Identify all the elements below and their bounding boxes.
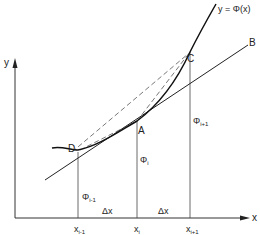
x-ip1-label: xi+1: [186, 224, 199, 235]
x-i-label: xi: [134, 224, 140, 235]
x-axis-label: x: [252, 212, 257, 223]
point-B-label: B: [249, 37, 256, 48]
phi-im1-label: Φi-1: [82, 192, 97, 203]
y-axis-label: y: [4, 57, 9, 68]
curve-label: y = Φ(x): [218, 4, 250, 14]
curve-phi: [52, 4, 216, 150]
point-D-label: D: [68, 143, 75, 154]
x-axis-arrow-icon: [240, 216, 250, 221]
phi-ip1-label: Φi+1: [193, 116, 209, 127]
point-C-label: C: [187, 53, 194, 64]
point-A-label: A: [138, 125, 145, 136]
x-im1-label: xi-1: [74, 224, 86, 235]
delta-x-label-1: Δx: [102, 206, 113, 216]
y-axis-arrow-icon: [13, 58, 18, 68]
phi-i-label: Φi: [140, 155, 149, 166]
secant-DC-dashed: [72, 54, 188, 152]
delta-x-label-2: Δx: [158, 206, 169, 216]
secant-AC-dashed: [137, 52, 190, 121]
finite-difference-diagram: y x D A C B y = Φ(x) Φi-1 Φi Φi+1 Δx Δx …: [0, 0, 260, 235]
